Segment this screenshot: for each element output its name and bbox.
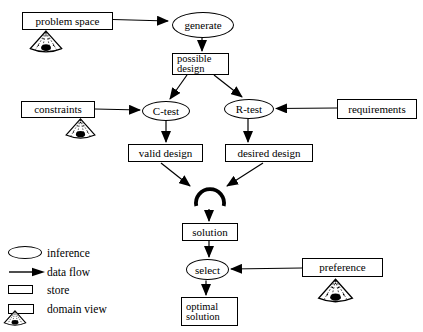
node-solution: solution <box>182 223 238 241</box>
domain-view-rectangle <box>8 304 34 314</box>
node-r-test: R-test <box>224 99 274 119</box>
data-flow-symbol <box>8 267 47 277</box>
legend-item-data-flow: data flow <box>8 264 90 279</box>
arrow-preference-to-select <box>231 268 302 269</box>
arrow-possible-to-ctest <box>170 75 187 99</box>
node-valid-design: valid design <box>128 144 203 162</box>
node-desired-design: desired design <box>225 144 313 162</box>
node-select: select <box>186 259 229 280</box>
arrow-desired-to-store <box>227 163 263 186</box>
domain-view-icon <box>62 118 99 139</box>
node-preference: preference <box>302 258 383 277</box>
domain-view-icon <box>2 310 28 326</box>
arrow-possible-to-rtest <box>214 75 242 97</box>
diagram-canvas: problem space possible design constraint… <box>0 0 423 332</box>
domain-view-icon <box>315 278 356 303</box>
legend-label-data-flow: data flow <box>47 266 90 278</box>
legend-label-inference: inference <box>47 247 90 259</box>
node-optimal-solution: optimal solution <box>181 297 238 326</box>
inference-ellipse-icon <box>8 246 42 259</box>
legend-item-store: store <box>8 282 69 297</box>
domain-view-symbol <box>8 304 47 314</box>
legend-item-domain-view: domain view <box>8 301 107 316</box>
arrow-requirements-to-rtest <box>276 108 337 109</box>
arrow-constraints-to-ctest <box>95 109 140 110</box>
node-constraints: constraints <box>21 101 95 118</box>
arrow-icon <box>8 267 46 277</box>
legend-label-domain-view: domain view <box>47 303 107 315</box>
node-problem-space: problem space <box>22 12 113 30</box>
inference-symbol <box>8 246 47 259</box>
arrow-valid-to-store <box>161 163 190 186</box>
node-possible-design: possible design <box>172 53 229 75</box>
node-c-test: C-test <box>142 101 190 121</box>
node-generate: generate <box>172 12 234 38</box>
store-symbol <box>8 285 47 294</box>
arrow-problem-to-generate <box>113 20 168 22</box>
legend-item-inference: inference <box>8 245 90 260</box>
store-junction-arc <box>196 189 224 206</box>
store-rectangle-icon <box>8 285 33 294</box>
legend-label-store: store <box>47 284 69 296</box>
node-requirements: requirements <box>337 99 417 119</box>
domain-view-icon <box>27 30 65 53</box>
